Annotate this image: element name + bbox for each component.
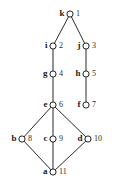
node-number-i: 2	[59, 41, 63, 50]
node-circle-f[interactable]	[83, 102, 89, 108]
node-number-j: 3	[92, 41, 96, 50]
node-label-a: a	[43, 166, 48, 176]
node-circle-g[interactable]	[50, 71, 56, 77]
node-circle-c[interactable]	[50, 136, 56, 142]
node-circle-k[interactable]	[67, 11, 73, 17]
node-label-f: f	[77, 99, 81, 109]
graph-node-a[interactable]: a11	[43, 166, 67, 176]
node-number-g: 4	[59, 69, 63, 78]
node-number-a: 11	[59, 167, 67, 176]
node-label-c: c	[43, 133, 47, 143]
node-circle-d[interactable]	[85, 136, 91, 142]
graph-node-b[interactable]: b8	[11, 133, 32, 143]
node-label-d: d	[77, 133, 82, 143]
node-label-k: k	[59, 8, 64, 18]
node-label-h: h	[75, 68, 80, 78]
node-label-b: b	[11, 133, 16, 143]
nodes-layer: k1i2j3g4h5e6f7b8c9d10a11	[11, 8, 102, 176]
node-number-b: 8	[28, 134, 32, 143]
node-number-k: 1	[76, 9, 80, 18]
node-label-j: j	[76, 40, 80, 50]
node-circle-h[interactable]	[83, 71, 89, 77]
graph-canvas: k1i2j3g4h5e6f7b8c9d10a11	[0, 0, 116, 190]
node-number-d: 10	[94, 134, 102, 143]
node-circle-b[interactable]	[19, 136, 25, 142]
node-label-g: g	[43, 68, 48, 78]
graph-node-f[interactable]: f7	[77, 99, 96, 109]
node-label-i: i	[45, 40, 48, 50]
graph-node-j[interactable]: j3	[76, 40, 96, 50]
graph-node-d[interactable]: d10	[77, 133, 102, 143]
graph-diagram: k1i2j3g4h5e6f7b8c9d10a11	[0, 0, 116, 190]
node-number-f: 7	[92, 100, 96, 109]
node-circle-a[interactable]	[50, 169, 56, 175]
graph-edge-d-a	[55, 141, 85, 170]
node-number-e: 6	[59, 100, 63, 109]
node-circle-i[interactable]	[50, 43, 56, 49]
node-label-e: e	[43, 99, 47, 109]
node-number-c: 9	[59, 134, 63, 143]
graph-node-i[interactable]: i2	[45, 40, 63, 50]
node-number-h: 5	[92, 69, 96, 78]
graph-edge-k-i	[54, 17, 68, 44]
node-circle-e[interactable]	[50, 102, 56, 108]
graph-node-k[interactable]: k1	[59, 8, 80, 18]
node-circle-j[interactable]	[83, 43, 89, 49]
